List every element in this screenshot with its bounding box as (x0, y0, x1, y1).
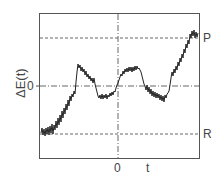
y-zero-label: 0 (27, 80, 34, 92)
x-zero-label: 0 (114, 162, 121, 174)
energy-trace (41, 30, 198, 136)
reactant-label: R (203, 128, 212, 140)
y-axis-label: ΔE(t) (13, 74, 28, 98)
x-axis-label: t (146, 162, 149, 174)
product-label: P (203, 32, 211, 44)
